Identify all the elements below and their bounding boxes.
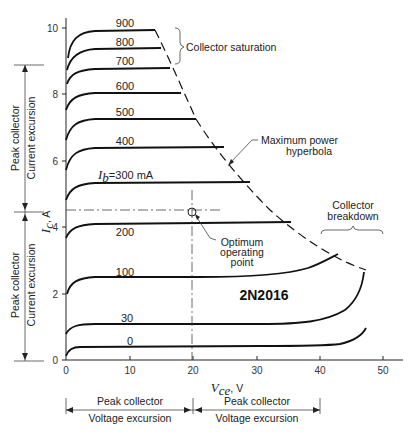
upper-current-excursion-label: Peak collector xyxy=(9,105,21,171)
breakdown-brace xyxy=(321,226,383,234)
y-ticks xyxy=(62,28,66,360)
curve-label-200: 200 xyxy=(116,226,134,238)
x-tick-label: 50 xyxy=(377,365,389,376)
curve-ib-800 xyxy=(67,48,161,70)
lower-current-excursion-label: Peak collector xyxy=(9,252,21,318)
transistor-characteristic-chart: 0 2 4 6 8 10 0 10 20 30 40 50 Vce, V Ic,… xyxy=(0,0,413,437)
curve-ib-0 xyxy=(66,328,366,356)
chart-title: 2N2016 xyxy=(239,287,288,303)
arrow-down-icon xyxy=(22,353,28,360)
x-tick-label: 20 xyxy=(187,365,199,376)
y-tick-label: 10 xyxy=(47,23,59,34)
y-tick-label: 6 xyxy=(52,156,58,167)
curve-ib-300 xyxy=(66,182,250,200)
x-tick-label: 0 xyxy=(63,365,69,376)
ib-curves xyxy=(66,30,366,356)
x-tick-label: 30 xyxy=(251,365,263,376)
arrow-right-icon xyxy=(313,407,320,413)
max-power-hyperbola xyxy=(155,30,366,270)
svg-text:Current excursion: Current excursion xyxy=(25,96,37,179)
curve-label-900: 900 xyxy=(116,17,134,29)
arrow-icon xyxy=(195,214,200,220)
arrow-left-icon xyxy=(66,407,73,413)
curve-ib-30 xyxy=(66,272,364,334)
curve-label-800: 800 xyxy=(116,36,134,48)
curve-label-500: 500 xyxy=(116,106,134,118)
x-tick-label: 40 xyxy=(314,365,326,376)
right-voltage-excursion-label: Voltage excursion xyxy=(216,412,299,424)
arrow-left-icon xyxy=(195,407,202,413)
optimum-leader xyxy=(196,216,216,240)
arrow-right-icon xyxy=(184,407,191,413)
curve-label-600: 600 xyxy=(116,80,134,92)
x-ticks xyxy=(130,356,383,360)
curve-ib-100 xyxy=(67,254,338,294)
curve-label-700: 700 xyxy=(116,55,134,67)
left-voltage-excursion-title: Peak collector xyxy=(97,395,163,407)
max-power-label-line2: hyperbola xyxy=(286,145,332,157)
y-tick-label: 2 xyxy=(52,289,58,300)
curve-label-100: 100 xyxy=(116,266,134,278)
curve-label-400: 400 xyxy=(116,135,134,147)
x-tick-label: 10 xyxy=(124,365,136,376)
optimum-label-line3: point xyxy=(231,256,254,268)
arrow-down-icon xyxy=(22,203,28,210)
right-voltage-excursion-title: Peak collector xyxy=(224,395,290,407)
arrow-up-icon xyxy=(22,214,28,221)
y-tick-label: 8 xyxy=(52,89,58,100)
max-power-leader xyxy=(230,140,258,163)
collector-saturation-label: Collector saturation xyxy=(186,41,277,53)
breakdown-label-line2: breakdown xyxy=(327,210,379,222)
svg-text:Peak collector: Peak collector xyxy=(9,252,21,318)
curve-ib-900 xyxy=(68,30,155,58)
arrow-up-icon xyxy=(22,65,28,72)
left-voltage-excursion-label: Voltage excursion xyxy=(89,412,172,424)
upper-current-excursion-label-2: Current excursion xyxy=(25,96,37,179)
curve-label-0: 0 xyxy=(127,335,133,347)
saturation-brace xyxy=(175,28,184,64)
curve-label-30: 30 xyxy=(121,312,133,324)
svg-text:Current excursion: Current excursion xyxy=(25,243,37,326)
lower-current-excursion-label-2: Current excursion xyxy=(25,243,37,326)
y-tick-label: 0 xyxy=(52,355,58,366)
svg-text:Peak collector: Peak collector xyxy=(9,105,21,171)
curve-ib-400 xyxy=(66,147,224,170)
